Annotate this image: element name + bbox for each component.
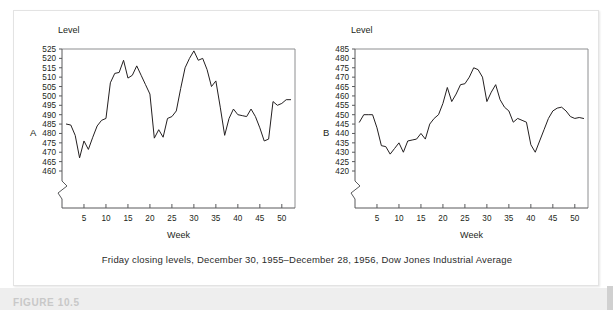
x-tick-label-a: 15 [123, 214, 133, 223]
x-tick-label-a: 25 [167, 214, 177, 223]
chart-a-svg: LevelA4604654704754804854904955005055105… [14, 11, 307, 247]
x-tick-label-b: 20 [438, 214, 448, 223]
y-tick-label-b: 455 [335, 101, 349, 110]
y-tick-label-b: 430 [335, 148, 349, 157]
y-tick-label-b: 435 [335, 139, 349, 148]
y-tick-label-a: 465 [42, 158, 56, 167]
series-line-B-0 [359, 68, 583, 154]
y-tick-label-a: 505 [42, 83, 56, 92]
chart-panel-a: LevelA4604654704754804854904955005055105… [14, 11, 307, 247]
y-tick-label-b: 475 [335, 64, 349, 73]
charts-row: LevelA4604654704754804854904955005055105… [14, 11, 600, 247]
y-tick-label-a: 510 [42, 73, 56, 82]
y-tick-label-b: 425 [335, 158, 349, 167]
y-tick-label-b: 480 [335, 54, 349, 63]
x-tick-label-a: 30 [189, 214, 199, 223]
y-tick-label-a: 470 [42, 148, 56, 157]
x-tick-label-a: 50 [277, 214, 287, 223]
series-line-A-0 [66, 51, 290, 158]
x-tick-label-a: 5 [82, 214, 87, 223]
figure-root: LevelA4604654704754804854904955005055105… [0, 0, 613, 310]
figure-number-label: FIGURE 10.5 [13, 297, 80, 308]
x-tick-label-b: 40 [526, 214, 536, 223]
y-tick-label-b: 485 [335, 45, 349, 54]
x-tick-label-b: 25 [460, 214, 470, 223]
y-axis-title-b: Level [351, 25, 373, 35]
y-tick-label-b: 445 [335, 120, 349, 129]
x-tick-label-b: 5 [375, 214, 380, 223]
chart-panel-b: LevelB4204254304354404454504554604654704… [307, 11, 600, 247]
x-tick-label-b: 35 [504, 214, 514, 223]
y-tick-label-b: 440 [335, 129, 349, 138]
y-tick-label-b: 460 [335, 92, 349, 101]
x-tick-label-a: 45 [255, 214, 265, 223]
y-tick-label-b: 420 [335, 167, 349, 176]
y-axis-title-a: Level [58, 25, 80, 35]
y-tick-label-a: 520 [42, 54, 56, 63]
x-tick-label-b: 10 [394, 214, 404, 223]
panel-letter-B: B [323, 127, 329, 138]
y-axis-break-a [58, 181, 67, 208]
y-axis-break-b [351, 181, 360, 208]
y-tick-label-a: 460 [42, 167, 56, 176]
y-tick-label-a: 500 [42, 92, 56, 101]
y-tick-label-a: 475 [42, 139, 56, 148]
bottom-strip: FIGURE 10.5 [0, 288, 613, 310]
chart-b-svg: LevelB4204254304354404454504554604654704… [307, 11, 600, 247]
y-tick-label-a: 480 [42, 129, 56, 138]
x-tick-label-b: 45 [548, 214, 558, 223]
y-tick-label-a: 485 [42, 120, 56, 129]
figure-caption: Friday closing levels, December 30, 1955… [14, 254, 600, 265]
y-tick-label-a: 495 [42, 101, 56, 110]
x-tick-label-a: 40 [233, 214, 243, 223]
y-tick-label-b: 465 [335, 83, 349, 92]
x-axis-title-a: Week [167, 230, 190, 240]
x-tick-label-a: 20 [145, 214, 155, 223]
x-tick-label-b: 50 [570, 214, 580, 223]
y-tick-label-a: 515 [42, 64, 56, 73]
x-tick-label-a: 35 [211, 214, 221, 223]
y-tick-label-b: 470 [335, 73, 349, 82]
x-tick-label-b: 30 [482, 214, 492, 223]
figure-panel: LevelA4604654704754804854904955005055105… [13, 10, 599, 286]
y-tick-label-a: 525 [42, 45, 56, 54]
x-tick-label-b: 15 [416, 214, 426, 223]
scrollbar-rail[interactable] [607, 286, 613, 310]
x-tick-label-a: 10 [101, 214, 111, 223]
y-tick-label-b: 450 [335, 111, 349, 120]
x-axis-title-b: Week [460, 230, 483, 240]
y-tick-label-a: 490 [42, 111, 56, 120]
panel-letter-A: A [30, 127, 37, 138]
